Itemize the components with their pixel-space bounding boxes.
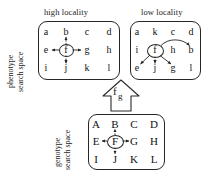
cell-geno-r0c1: B: [110, 119, 120, 130]
cell-low-r0c0: a: [132, 27, 142, 37]
cell-low-r1c0: i: [132, 45, 142, 55]
cell-high-r2c1: j: [61, 63, 71, 73]
cell-low-r1c3: b: [186, 45, 196, 55]
cell-geno-r2c0: I: [91, 154, 101, 165]
cell-high-r2c3: l: [104, 63, 114, 73]
cell-geno-r1c3: H: [149, 136, 159, 147]
cell-geno-r0c3: D: [149, 119, 159, 130]
cell-high-r0c1: b: [61, 27, 71, 37]
cell-high-r1c1: f: [61, 45, 71, 55]
cell-low-r2c1: j: [150, 63, 160, 73]
cell-geno-r2c2: K: [129, 154, 139, 165]
cell-geno-r1c2: G: [129, 136, 139, 147]
genotype-axis-label-line1: genotype: [53, 138, 62, 167]
cell-low-r2c0: e: [132, 63, 142, 73]
cell-geno-r0c0: A: [91, 119, 101, 130]
cell-high-r2c0: i: [41, 63, 51, 73]
cell-geno-r2c1: J: [110, 154, 120, 165]
cell-low-r0c2: c: [168, 27, 178, 37]
cell-low-r2c2: g: [168, 63, 178, 73]
cell-high-r2c2: k: [82, 63, 92, 73]
cell-low-r2c3: l: [186, 63, 196, 73]
panel-title-high-locality: high locality: [44, 7, 88, 17]
cell-high-r1c0: e: [41, 45, 51, 55]
cell-geno-r1c0: E: [91, 136, 101, 147]
cell-high-r1c3: h: [104, 45, 114, 55]
cell-high-r0c0: a: [41, 27, 51, 37]
cell-low-r1c1: f: [150, 45, 160, 55]
cell-high-r0c3: d: [104, 27, 114, 37]
cell-geno-r1c1: F: [110, 136, 120, 147]
phenotype-axis-label-line1: phenotype: [6, 55, 15, 88]
mapping-label-g-subscript: g: [118, 91, 123, 101]
cell-low-r0c1: k: [150, 27, 160, 37]
cell-low-r1c2: h: [168, 45, 178, 55]
cell-geno-r0c2: C: [129, 119, 139, 130]
panel-title-low-locality: low locality: [141, 7, 183, 17]
cell-high-r0c2: c: [82, 27, 92, 37]
cell-high-r1c2: g: [82, 45, 92, 55]
phenotype-axis-label-line2: search space: [16, 52, 25, 92]
genotype-axis-label-line2: search space: [63, 130, 72, 170]
figure-canvas: high locality low locality phenotype sea…: [0, 0, 203, 173]
cell-geno-r2c3: L: [149, 154, 159, 165]
mapping-label-f: f: [113, 85, 117, 97]
cell-low-r0c3: d: [186, 27, 196, 37]
